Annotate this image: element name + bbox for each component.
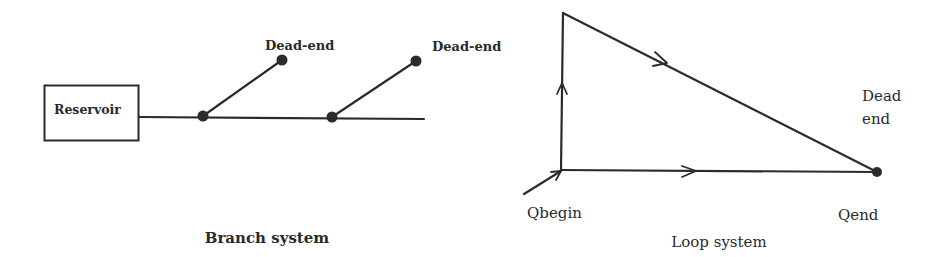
junction-node-1 xyxy=(198,111,209,122)
qbegin-label: Qbegin xyxy=(527,204,582,222)
dead-end-node-2 xyxy=(411,56,422,67)
vertical-pipe xyxy=(561,13,563,171)
pipe-network-diagram: Reservoir Dead-end Dead-end Branch syste… xyxy=(0,0,936,257)
dead-end-label-line1: Dead xyxy=(862,87,902,105)
qend-label: Qend xyxy=(838,206,879,224)
loop-system: Dead end Qbegin Qend Loop system xyxy=(524,13,902,251)
dead-end-label-line2: end xyxy=(862,110,891,128)
junction-node-2 xyxy=(327,112,338,123)
branch-system: Reservoir Dead-end Dead-end Branch syste… xyxy=(45,38,502,247)
branch-system-caption: Branch system xyxy=(205,229,330,247)
qend-node xyxy=(872,167,882,177)
loop-system-caption: Loop system xyxy=(671,233,766,251)
inflow-pipe xyxy=(524,171,561,194)
branch-pipe-2 xyxy=(332,61,416,117)
horizontal-pipe xyxy=(561,170,877,172)
branch-pipe-1 xyxy=(203,60,282,116)
dead-end-label-1: Dead-end xyxy=(265,38,334,53)
diagonal-pipe xyxy=(563,13,877,172)
dead-end-node-1 xyxy=(277,55,288,66)
main-pipe xyxy=(139,117,424,119)
reservoir-label: Reservoir xyxy=(54,102,121,117)
dead-end-label-2: Dead-end xyxy=(432,39,501,54)
